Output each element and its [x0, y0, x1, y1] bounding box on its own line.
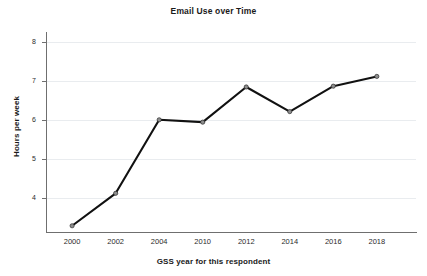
gridline-y-7 — [46, 81, 416, 82]
gridline-y-4 — [46, 198, 416, 199]
x-tick-label-2018: 2018 — [357, 238, 397, 246]
gridline-y-5 — [46, 159, 416, 160]
x-tick-label-2004: 2004 — [139, 238, 179, 246]
x-axis-line — [46, 232, 417, 233]
x-tick-label-2014: 2014 — [270, 238, 310, 246]
chart-title: Email Use over Time — [0, 6, 427, 16]
y-tick-label-7: 7 — [22, 77, 36, 84]
y-axis-title: Hours per week — [12, 67, 21, 187]
plot-area — [46, 32, 416, 232]
y-tick-label-8: 8 — [22, 38, 36, 45]
y-tick-label-5: 5 — [22, 155, 36, 162]
x-axis-title: GSS year for this respondent — [0, 257, 427, 266]
y-axis-line — [46, 32, 47, 233]
gridline-y-6 — [46, 120, 416, 121]
chart-container: Email Use over Time 87654 20002002200420… — [0, 0, 427, 276]
y-tick-label-4: 4 — [22, 194, 36, 201]
x-tick-label-2010: 2010 — [183, 238, 223, 246]
x-tick-label-2002: 2002 — [96, 238, 136, 246]
x-tick-label-2012: 2012 — [226, 238, 266, 246]
x-tick-label-2016: 2016 — [313, 238, 353, 246]
x-tick-label-2000: 2000 — [52, 238, 92, 246]
gridline-y-8 — [46, 42, 416, 43]
y-tick-label-6: 6 — [22, 116, 36, 123]
